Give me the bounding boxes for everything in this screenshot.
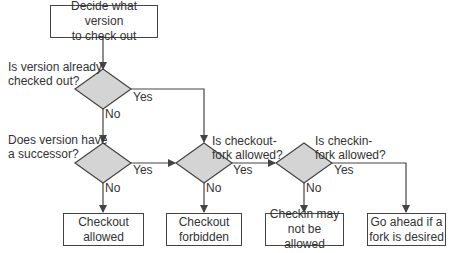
start-line1: Decide what version [51,0,157,29]
outcome-go-ahead-if-fork-desired: Go ahead if a fork is desired [367,213,446,246]
decision-3-yes: Yes [233,164,253,177]
decision-2-question: Does version have a successor? [8,133,107,161]
outcome-checkout-allowed: Checkout allowed [63,213,144,246]
decision-3-question: Is checkout- fork allowed? [212,134,283,162]
decision-4-yes: Yes [334,164,354,177]
outcome-checkin-may-not-be-allowed: Checkin may not be allowed [265,213,344,246]
start-line2: to check out [72,29,137,44]
decision-1-no: No [105,108,120,121]
decision-4-question: Is checkin- fork allowed? [315,134,386,162]
decision-2-yes: Yes [133,164,153,177]
outcome-checkout-forbidden: Checkout forbidden [166,213,242,246]
start-box: Decide what version to check out [50,5,158,38]
decision-2-no: No [105,182,120,195]
decision-3-no: No [206,182,221,195]
decision-1-question: Is version already checked out? [8,60,102,88]
decision-4-no: No [306,182,321,195]
decision-1-yes: Yes [133,91,153,104]
